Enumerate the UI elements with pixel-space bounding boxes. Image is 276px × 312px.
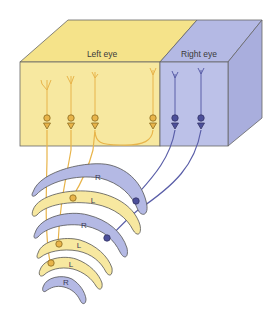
front-face-right-eye [160, 62, 228, 146]
axon-left-2 [58, 130, 71, 244]
lgn-cell-right-2 [104, 235, 110, 241]
lgn-layers: R L R L L R [32, 164, 147, 304]
left-eye-label: Left eye [87, 49, 118, 59]
right-eye-label: Right eye [181, 49, 217, 59]
lgn-layer-4-label: L [77, 241, 82, 250]
lgn-layer-6-label: R [63, 278, 69, 287]
ocular-dominance-diagram: Left eye Right eye R L R L L R [0, 0, 276, 312]
lgn-layer-5-label: L [69, 260, 74, 269]
lgn-cell-right-1 [133, 198, 139, 204]
cortex-block: Left eye Right eye [20, 20, 262, 146]
lgn-layer-1-label: R [95, 173, 101, 182]
lgn-cell-left-1 [70, 195, 76, 201]
lgn-cell-left-3 [48, 260, 54, 266]
front-face-left-eye [20, 62, 160, 146]
lgn-layer-2-label: L [91, 196, 96, 205]
lgn-layer-3-label: R [81, 221, 87, 230]
lgn-cell-left-2 [56, 241, 62, 247]
